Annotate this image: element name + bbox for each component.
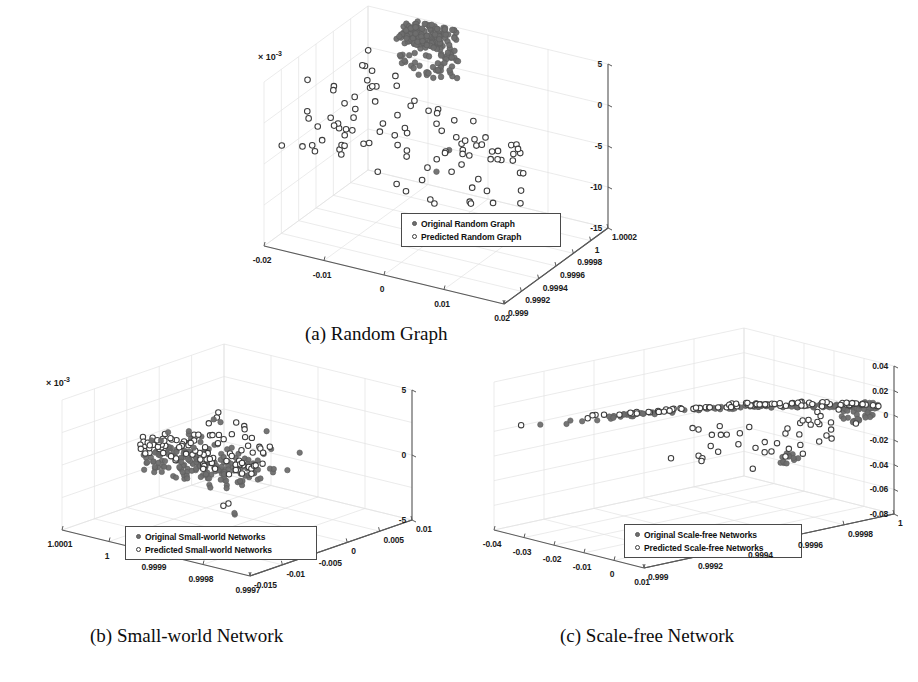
legend-row-original: Original Random Graph	[407, 217, 553, 230]
axis-tick-label: -0.02	[870, 435, 888, 445]
caption-panel-c: (c) Scale-free Network	[560, 625, 734, 647]
axis-tick-label: -0.03	[513, 547, 531, 557]
open-circle-icon	[630, 545, 644, 550]
axis-tick-label: -5	[399, 515, 406, 525]
axis-tick-label: -0.01	[313, 270, 331, 280]
legend-row-original: Original Small-world Networks	[131, 530, 309, 543]
legend-label-predicted: Predicted Scale-free Networks	[644, 543, 763, 553]
axis-tick-label: 0.01	[434, 299, 450, 309]
plot-area-c	[484, 396, 904, 611]
legend-b: Original Small-world Networks Predicted …	[125, 526, 317, 560]
axis-tick-label: 1	[898, 518, 903, 528]
axis-tick-label: 1.0002	[612, 232, 637, 242]
axis-tick-label: 0.9998	[577, 257, 602, 267]
axis-tick-label: -0.02	[543, 554, 561, 564]
axes-3d-c	[484, 396, 904, 611]
axis-tick-label: 0	[351, 546, 356, 556]
caption-panel-b: (b) Small-world Network	[90, 625, 283, 647]
z-exponent-label-b: × 10-3	[46, 376, 70, 388]
axis-tick-label: 0.9996	[798, 540, 823, 550]
legend-label-original: Original Small-world Networks	[145, 532, 265, 542]
plot-area-b	[40, 378, 420, 613]
axis-tick-label: 0.02	[872, 386, 888, 396]
axis-tick-label: -0.005	[319, 558, 342, 568]
legend-label-predicted: Predicted Random Graph	[421, 232, 521, 242]
panel-small-world-network: × 10-3 Original Small-world Networks Pre…	[40, 378, 420, 613]
axis-tick-label: 5	[597, 59, 602, 69]
axis-tick-label: 0.01	[416, 524, 432, 534]
axis-tick-label: -10	[590, 182, 602, 192]
axis-tick-label: -0.01	[573, 562, 591, 572]
axis-tick-label: -0.02	[253, 255, 271, 265]
axis-tick-label: 0.9998	[189, 574, 214, 584]
legend-label-predicted: Predicted Small-world Networks	[145, 545, 272, 555]
z-exponent-label-a: × 10-3	[258, 50, 282, 62]
axis-tick-label: 1	[595, 245, 600, 255]
filled-circle-icon	[407, 221, 421, 226]
axis-tick-label: 0	[883, 410, 888, 420]
legend-row-predicted: Predicted Small-world Networks	[131, 543, 309, 556]
axis-tick-label: 0	[610, 569, 615, 579]
axis-tick-label: 0.9994	[748, 550, 773, 560]
legend-label-original: Original Random Graph	[421, 219, 515, 229]
axis-tick-label: 0.005	[384, 535, 404, 545]
axis-tick-label: -0.04	[870, 460, 888, 470]
axis-tick-label: -0.08	[870, 509, 888, 519]
axis-tick-label: 0.9998	[848, 529, 873, 539]
axis-tick-label: -0.04	[483, 539, 501, 549]
axis-tick-label: 0	[597, 100, 602, 110]
axis-tick-label: 0.9996	[560, 270, 585, 280]
open-circle-icon	[407, 234, 421, 239]
axis-tick-label: -0.015	[254, 580, 277, 590]
filled-circle-icon	[630, 532, 644, 537]
legend-row-predicted: Predicted Random Graph	[407, 230, 553, 243]
axis-tick-label: 0.04	[872, 361, 888, 371]
axis-tick-label: -0.06	[870, 484, 888, 494]
axis-tick-label: 0	[401, 450, 406, 460]
axis-tick-label: 0.9999	[142, 562, 167, 572]
axes-3d-b	[40, 378, 420, 613]
axis-tick-label: 0.9994	[543, 283, 568, 293]
filled-circle-icon	[131, 534, 145, 539]
panel-scale-free-network: Original Scale-free Networks Predicted S…	[484, 396, 904, 611]
axis-tick-label: 0.999	[508, 308, 528, 318]
axis-tick-label: 0.9992	[525, 295, 550, 305]
legend-row-original: Original Scale-free Networks	[630, 528, 794, 541]
axis-tick-label: 0.999	[648, 572, 668, 582]
axis-tick-label: 5	[401, 385, 406, 395]
axis-tick-label: -0.01	[286, 569, 304, 579]
legend-a: Original Random Graph Predicted Random G…	[401, 213, 561, 247]
caption-panel-a: (a) Random Graph	[305, 323, 447, 345]
axis-tick-label: 1.0001	[48, 539, 73, 549]
axis-tick-label: 0	[380, 284, 385, 294]
open-circle-icon	[131, 547, 145, 552]
legend-c: Original Scale-free Networks Predicted S…	[624, 524, 802, 558]
axis-tick-label: -15	[590, 223, 602, 233]
axis-tick-label: -5	[595, 141, 602, 151]
axis-tick-label: 0.9992	[698, 561, 723, 571]
legend-label-original: Original Scale-free Networks	[644, 530, 757, 540]
panel-random-graph: × 10-3 Original Random Graph Predicted R…	[256, 50, 616, 320]
axis-tick-label: 1	[105, 551, 110, 561]
